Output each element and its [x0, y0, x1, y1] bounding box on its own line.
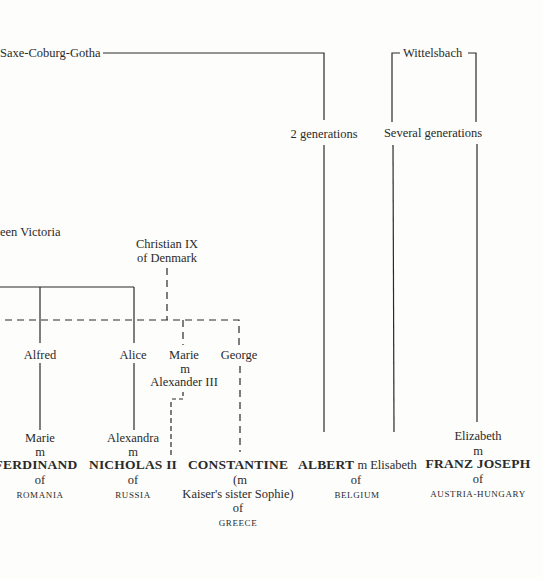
two-generations-label: 2 generations: [291, 127, 358, 141]
marie-married-label: m: [180, 362, 190, 376]
greece-country: GREECE: [219, 516, 258, 530]
romania-of: of: [35, 473, 45, 487]
queen-victoria-label: een Victoria: [0, 225, 60, 239]
russia-spouse: Alexandra: [107, 431, 159, 445]
belgium-line: ALBERT m Elisabeth: [298, 458, 417, 472]
russia-of: of: [128, 473, 138, 487]
house-saxe-coburg-gotha: Saxe-Coburg-Gotha: [0, 46, 100, 60]
austria-spouse: Elizabeth: [454, 429, 501, 443]
alice-label: Alice: [119, 348, 146, 362]
belgium-monarch: ALBERT: [298, 457, 354, 472]
several-generations-label: Several generations: [384, 126, 482, 140]
alexander-iii-label: Alexander III: [150, 375, 218, 389]
greece-monarch: CONSTANTINE: [188, 458, 288, 472]
george-label: George: [221, 348, 258, 362]
greece-note-1: (m: [233, 473, 247, 487]
romania-spouse: Marie: [25, 431, 55, 445]
marie-label: Marie: [169, 348, 199, 362]
belgium-of: of: [351, 473, 361, 487]
russia-monarch: NICHOLAS II: [89, 458, 177, 472]
marie-descent-corner: [171, 392, 183, 399]
belgium-spouse: Elisabeth: [370, 458, 417, 472]
romania-monarch: FERDINAND: [0, 458, 77, 472]
belgium-married: m: [357, 458, 367, 472]
house-wittelsbach: Wittelsbach: [401, 46, 464, 60]
elisabeth-descent-line: [393, 145, 394, 432]
of-denmark-label: of Denmark: [137, 251, 197, 265]
romania-country: ROMANIA: [16, 488, 63, 502]
wittelsbach-left-bracket: [392, 53, 400, 122]
austria-country: AUSTRIA-HUNGARY: [430, 487, 526, 501]
alfred-label: Alfred: [24, 348, 57, 362]
austria-monarch: FRANZ JOSEPH: [426, 457, 531, 471]
austria-of: of: [473, 472, 483, 486]
saxe-coburg-line: [103, 53, 324, 120]
russia-country: RUSSIA: [115, 488, 151, 502]
greece-of: of: [233, 501, 243, 515]
christian-ix-label: Christian IX: [136, 237, 198, 251]
greece-note-2: Kaiser's sister Sophie): [182, 487, 293, 501]
wittelsbach-right-bracket: [468, 53, 476, 122]
belgium-country: BELGIUM: [334, 488, 379, 502]
